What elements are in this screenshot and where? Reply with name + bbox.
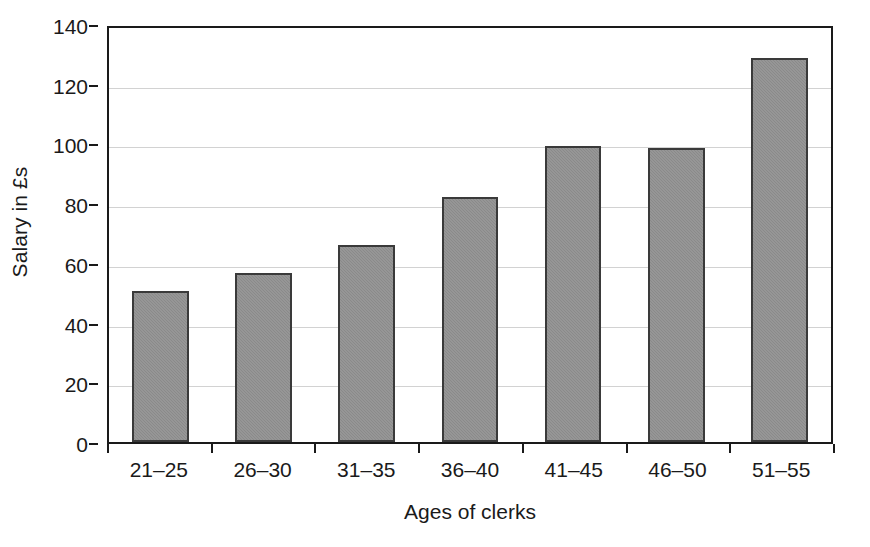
y-axis-tick-label: 60 xyxy=(65,254,88,275)
x-axis-tick-mark xyxy=(418,444,420,453)
y-axis-title-text: Salary in £s xyxy=(8,167,32,278)
x-axis-tick-label: 26–30 xyxy=(211,458,315,492)
y-axis-tick-mark xyxy=(89,144,98,146)
y-axis-tick-label: 120 xyxy=(53,75,88,96)
y-axis-tick-mark xyxy=(89,383,98,385)
bar-slot xyxy=(109,28,212,442)
x-axis-tick-label: 46–50 xyxy=(626,458,730,492)
y-axis-tick-mark xyxy=(89,85,98,87)
y-axis-tick-mark xyxy=(89,324,98,326)
x-axis-tick-mark xyxy=(314,444,316,453)
bar[interactable] xyxy=(338,245,395,442)
y-axis-tick-mark xyxy=(89,264,98,266)
plot-area xyxy=(107,26,833,444)
x-axis-tick-label: 21–25 xyxy=(107,458,211,492)
bar-slot xyxy=(625,28,728,442)
y-axis-tick-label: 0 xyxy=(76,434,88,455)
bar-slot xyxy=(522,28,625,442)
x-axis-tick-label: 36–40 xyxy=(418,458,522,492)
bar-slot xyxy=(212,28,315,442)
bar-slot xyxy=(418,28,521,442)
x-axis-tick-mark xyxy=(626,444,628,453)
x-axis-tick-label: 31–35 xyxy=(314,458,418,492)
y-axis-tick-mark xyxy=(89,443,98,445)
bar-chart-figure: Salary in £s 020406080100120140 21–2526–… xyxy=(0,0,870,547)
bar-slot xyxy=(315,28,418,442)
bar[interactable] xyxy=(545,146,602,442)
y-axis-tick-label: 80 xyxy=(65,195,88,216)
bar[interactable] xyxy=(751,58,808,442)
y-axis-tick-mark xyxy=(89,204,98,206)
x-axis-tick-marks xyxy=(107,444,833,456)
x-axis-tick-labels: 21–2526–3031–3536–4041–4546–5051–55 xyxy=(107,458,833,492)
bar[interactable] xyxy=(648,148,705,442)
x-axis-tick-mark xyxy=(107,444,109,453)
y-axis-tick-label: 20 xyxy=(65,374,88,395)
y-axis-tick-label: 140 xyxy=(53,16,88,37)
bar[interactable] xyxy=(442,197,499,442)
x-axis-tick-mark xyxy=(522,444,524,453)
bar-slot xyxy=(728,28,831,442)
bar[interactable] xyxy=(235,273,292,442)
y-axis-tick-label: 40 xyxy=(65,314,88,335)
x-axis-tick-mark xyxy=(833,444,835,453)
x-axis-tick-mark xyxy=(211,444,213,453)
x-axis-tick-label: 41–45 xyxy=(522,458,626,492)
x-axis-title: Ages of clerks xyxy=(107,500,833,524)
y-axis-title: Salary in £s xyxy=(0,0,40,444)
x-axis-tick-mark xyxy=(729,444,731,453)
y-axis-tick-mark xyxy=(89,25,98,27)
bars-layer xyxy=(109,28,831,442)
y-axis-tick-labels: 020406080100120140 xyxy=(36,0,98,470)
y-axis-tick-label: 100 xyxy=(53,135,88,156)
x-axis-tick-label: 51–55 xyxy=(729,458,833,492)
bar[interactable] xyxy=(132,291,189,442)
